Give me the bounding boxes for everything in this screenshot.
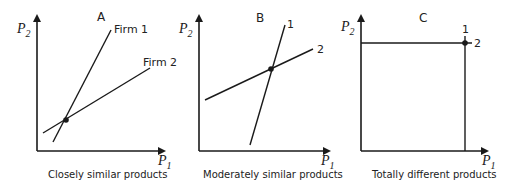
reaction-functions-diagram: P2 P1 A Firm 1 Firm 2 Closely similar pr… (0, 0, 514, 190)
equilibrium-dot (268, 66, 274, 72)
panel-c: P2 P1 C 1 2 Totally different products (340, 11, 497, 180)
y-axis-label: P2 (178, 21, 193, 39)
equilibrium-dot (462, 40, 468, 46)
panel-title: B (256, 11, 264, 25)
y-axis-label: P2 (340, 19, 355, 37)
panel-caption: Totally different products (371, 169, 497, 180)
panel-caption: Moderately similar products (203, 169, 343, 180)
y-axis-label: P2 (16, 21, 31, 39)
firm-1-reaction-line (250, 25, 285, 145)
firm-2-reaction-line (43, 68, 150, 133)
firm-2-label: 2 (474, 37, 481, 50)
firm-1-label: 1 (287, 18, 294, 31)
firm-2-label: 2 (317, 43, 324, 56)
firm-2-reaction-line (205, 49, 313, 100)
panel-b: P2 P1 B 1 2 Moderately similar products (178, 11, 343, 180)
firm-1-label: Firm 1 (114, 23, 148, 36)
panel-title: C (419, 11, 427, 25)
panel-a: P2 P1 A Firm 1 Firm 2 Closely similar pr… (16, 10, 177, 180)
firm-1-label: 1 (462, 23, 469, 36)
equilibrium-dot (63, 117, 69, 123)
panel-caption: Closely similar products (48, 169, 168, 180)
firm-2-label: Firm 2 (143, 56, 177, 69)
firm-1-reaction-line (53, 30, 111, 142)
panel-title: A (97, 10, 106, 24)
